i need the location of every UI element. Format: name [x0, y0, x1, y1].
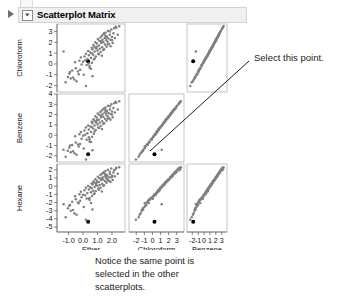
data-point[interactable] [195, 206, 198, 209]
data-point[interactable] [88, 136, 91, 139]
data-point[interactable] [72, 150, 75, 153]
data-point[interactable] [93, 57, 96, 60]
data-point[interactable] [90, 202, 93, 205]
data-point[interactable] [105, 45, 108, 48]
scatterplot-matrix-svg[interactable]: -1.00.01.02.0Ether-2-10123Chloroform-2-1… [0, 22, 230, 250]
data-point[interactable] [111, 113, 114, 116]
scatter-panel-hexane-vs-benzene[interactable] [187, 164, 227, 232]
data-point[interactable] [93, 50, 96, 53]
data-point[interactable] [96, 181, 99, 184]
data-point[interactable] [102, 41, 105, 44]
data-point[interactable] [109, 105, 112, 108]
data-point[interactable] [88, 188, 91, 191]
data-point[interactable] [62, 50, 64, 53]
data-point[interactable] [91, 122, 94, 125]
data-point[interactable] [90, 131, 93, 134]
data-point[interactable] [206, 55, 209, 58]
data-point[interactable] [117, 108, 120, 111]
data-point[interactable] [165, 181, 168, 184]
data-point[interactable] [190, 216, 193, 219]
data-point[interactable] [75, 214, 78, 217]
data-point[interactable] [88, 128, 91, 131]
data-point[interactable] [179, 100, 182, 103]
data-point[interactable] [88, 65, 91, 68]
data-point[interactable] [90, 57, 93, 60]
data-point[interactable] [75, 141, 78, 144]
data-point[interactable] [84, 133, 87, 136]
data-point[interactable] [98, 48, 101, 51]
data-point[interactable] [110, 103, 113, 106]
selected-data-point[interactable] [152, 220, 156, 224]
data-point[interactable] [205, 192, 208, 195]
data-point[interactable] [95, 184, 98, 187]
data-point[interactable] [165, 119, 168, 122]
data-point[interactable] [106, 43, 109, 46]
data-point[interactable] [98, 127, 101, 130]
data-point[interactable] [152, 198, 155, 201]
data-point[interactable] [96, 49, 99, 52]
data-point[interactable] [107, 175, 110, 178]
data-point[interactable] [111, 39, 114, 42]
data-point[interactable] [104, 170, 107, 173]
data-point[interactable] [118, 100, 121, 103]
data-point[interactable] [85, 139, 88, 142]
data-point[interactable] [80, 196, 83, 199]
data-point[interactable] [142, 208, 145, 211]
data-point[interactable] [69, 209, 72, 212]
scatter-panel-benzene-vs-ether[interactable] [57, 94, 125, 162]
outline-disclosure-triangle[interactable] [7, 9, 16, 19]
data-point[interactable] [106, 179, 109, 182]
data-point[interactable] [111, 36, 114, 39]
data-point[interactable] [80, 63, 83, 65]
data-point[interactable] [109, 181, 112, 184]
data-point[interactable] [77, 201, 80, 204]
data-point[interactable] [95, 47, 98, 50]
data-point[interactable] [62, 148, 64, 151]
data-point[interactable] [96, 123, 99, 126]
data-point[interactable] [135, 158, 138, 161]
scatterplot-matrix-title-bar[interactable]: Scatterplot Matrix [18, 7, 247, 23]
data-point[interactable] [98, 181, 101, 184]
data-point[interactable] [102, 115, 105, 118]
data-point[interactable] [99, 51, 102, 54]
data-point[interactable] [112, 107, 115, 110]
data-point[interactable] [135, 218, 138, 221]
data-point[interactable] [98, 122, 101, 125]
data-point[interactable] [88, 54, 91, 57]
data-point[interactable] [190, 81, 193, 84]
data-point[interactable] [79, 69, 82, 72]
data-point[interactable] [82, 193, 85, 196]
data-point[interactable] [189, 85, 192, 88]
data-point[interactable] [83, 147, 86, 150]
data-point[interactable] [99, 187, 102, 190]
data-point[interactable] [75, 80, 78, 83]
data-point[interactable] [194, 208, 197, 211]
data-point[interactable] [91, 75, 94, 78]
data-point[interactable] [84, 59, 87, 62]
data-point[interactable] [117, 34, 120, 37]
data-point[interactable] [114, 168, 117, 171]
data-point[interactable] [64, 156, 67, 159]
data-point[interactable] [111, 176, 114, 179]
data-point[interactable] [93, 124, 96, 127]
data-point[interactable] [98, 184, 101, 187]
data-point[interactable] [171, 110, 174, 113]
data-point[interactable] [80, 138, 83, 141]
data-point[interactable] [169, 113, 172, 116]
data-point[interactable] [161, 148, 164, 151]
data-point[interactable] [105, 175, 108, 178]
data-point[interactable] [93, 130, 96, 133]
data-point[interactable] [145, 204, 148, 207]
data-point[interactable] [87, 124, 90, 127]
data-point[interactable] [189, 218, 192, 221]
data-point[interactable] [216, 175, 219, 178]
data-point[interactable] [91, 62, 94, 65]
data-point[interactable] [80, 191, 83, 194]
data-point[interactable] [74, 135, 77, 138]
data-point[interactable] [171, 175, 174, 178]
data-point[interactable] [77, 73, 80, 76]
data-point[interactable] [91, 149, 94, 152]
data-point[interactable] [100, 114, 103, 117]
data-point[interactable] [111, 42, 114, 45]
data-point[interactable] [96, 42, 99, 45]
